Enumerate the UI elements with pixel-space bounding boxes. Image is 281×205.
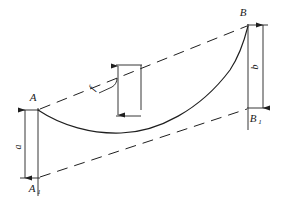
right-support-group: b B B 1 [240, 6, 268, 130]
left-support-group: a A A 1 [12, 91, 41, 196]
point-label-A: A [29, 91, 37, 103]
cable-sag-diagram: a A A 1 b B B 1 [0, 0, 281, 205]
point-label-A1-subscript: 1 [37, 188, 41, 196]
upper-chord-line-AB [40, 26, 247, 109]
cable-curve-group [38, 26, 248, 133]
point-label-B: B [240, 6, 247, 18]
dimension-label-b: b [249, 65, 260, 70]
sag-label-leader-line [99, 78, 117, 93]
diagram-canvas: a A A 1 b B B 1 [0, 0, 281, 205]
dimension-label-a: a [12, 145, 23, 150]
point-label-B1: B [250, 112, 257, 124]
lower-chord-line-A1B1 [40, 109, 247, 177]
catenary-cable-curve [38, 26, 248, 133]
dimension-label-f: f [86, 83, 98, 92]
sag-dimension-group: f [86, 65, 142, 116]
point-label-A1: A [28, 182, 36, 194]
chord-group [40, 26, 247, 177]
point-label-B1-subscript: 1 [258, 118, 262, 126]
